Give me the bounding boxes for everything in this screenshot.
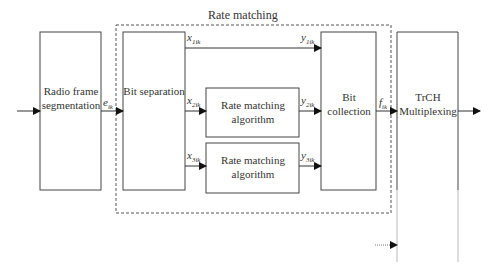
trch-label: TrCH Multiplexing: [397, 90, 459, 118]
signal-y2: y2ik: [301, 94, 314, 109]
group-title: Rate matching: [208, 8, 278, 23]
rate-matching-label-1: Rate matching algorithm: [206, 98, 300, 126]
signal-e: eik: [103, 96, 113, 111]
signal-x1: x1ik: [187, 31, 200, 46]
diagram-canvas: [0, 0, 495, 274]
bit-separation-box: [123, 32, 185, 190]
signal-f: fik: [379, 96, 387, 111]
bit-collection-label: Bit collection: [321, 90, 377, 118]
bit-separation-label: Bit separation: [122, 84, 186, 98]
signal-x2: x2ik: [187, 94, 200, 109]
signal-y3: y3ik: [301, 149, 314, 164]
rate-matching-label-2: Rate matching algorithm: [206, 153, 300, 181]
radio-frame-label: Radio frame segmentation: [40, 84, 102, 112]
signal-y1: y1ik: [301, 31, 314, 46]
signal-x3: x3ik: [187, 149, 200, 164]
